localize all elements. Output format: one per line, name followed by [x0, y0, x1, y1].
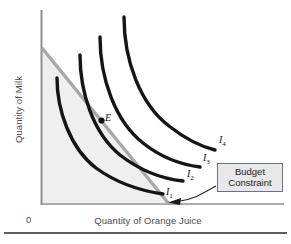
indifference-curve-i4 [124, 17, 215, 150]
budget-callout-line2: Constraint [218, 177, 282, 188]
budget-callout-line1: Budget [218, 166, 282, 177]
curve-label-i2-sub: 2 [190, 174, 194, 182]
equilibrium-point-e [98, 117, 104, 123]
curve-label-i2: I2 [187, 168, 194, 182]
bottom-divider [4, 232, 287, 234]
budget-constraint-callout: Budget Constraint [217, 163, 283, 192]
indifference-curve-chart [0, 0, 291, 244]
curve-label-i3: I3 [203, 152, 210, 166]
callout-arrow-curve [180, 186, 216, 201]
curve-label-i4-sub: 4 [222, 140, 226, 148]
figure-container: Quantity of Milk Quantity of Orange Juic… [0, 0, 291, 244]
curve-label-i1: I1 [166, 186, 173, 200]
y-axis-label: Quantity of Milk [13, 55, 24, 165]
origin-label: 0 [26, 214, 31, 225]
curve-label-i3-sub: 3 [206, 158, 210, 166]
curve-label-i1-sub: 1 [169, 192, 173, 200]
x-axis-label: Quantity of Orange Juice [68, 215, 228, 226]
equilibrium-point-label: E [105, 112, 111, 123]
curve-label-i4: I4 [219, 134, 226, 148]
